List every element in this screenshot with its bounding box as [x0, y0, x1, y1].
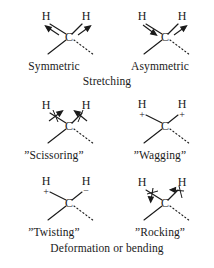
diagram-asymmetric-stretch: H H C — [112, 4, 212, 60]
atom-hydrogen-right: H — [82, 98, 91, 112]
bond-lower-left — [48, 40, 66, 54]
label-rocking: ”Rocking” — [108, 226, 212, 239]
vibrational-modes-figure: H H C Symmetric H H C — [0, 0, 214, 268]
bond-left-h — [50, 24, 66, 34]
label-scissoring: ”Scissoring” — [2, 149, 106, 162]
atom-hydrogen-left: H — [138, 175, 147, 189]
bond-left-h — [50, 192, 66, 200]
arrow-right-head — [181, 26, 187, 31]
bond-lower-left — [48, 206, 66, 220]
atom-hydrogen-left: H — [42, 98, 51, 112]
bond-lower-right-dashed — [170, 206, 190, 221]
bond-lower-right-dashed — [74, 206, 94, 221]
bond-lower-right-dashed — [74, 129, 94, 144]
bond-right-h — [168, 115, 178, 123]
bond-lower-left — [48, 129, 66, 143]
arrow-left-head — [45, 26, 51, 32]
diagram-symmetric-stretch: H H C — [16, 4, 116, 60]
diagram-scissoring: H H C — [16, 93, 116, 149]
bond-left-h — [146, 190, 162, 200]
sign-plus-left: + — [139, 109, 145, 120]
label-symmetric: Symmetric — [2, 60, 106, 73]
bond-right-h — [168, 24, 178, 34]
atom-carbon: C — [65, 196, 73, 210]
group-label-deformation: Deformation or bending — [0, 242, 214, 255]
bond-right-h — [72, 24, 82, 34]
bond-lower-right-dashed — [170, 129, 190, 144]
bond-lower-left — [144, 129, 162, 143]
arrow-right-head — [170, 188, 175, 193]
bond-lower-left — [144, 206, 162, 220]
label-wagging: ”Wagging” — [108, 149, 212, 162]
bond-lower-left — [144, 40, 162, 54]
diagram-rocking: H H C — [112, 170, 212, 226]
diagram-wagging: H H C + + — [112, 93, 212, 149]
sign-minus-right: − — [83, 185, 89, 196]
bond-right-h — [72, 192, 82, 200]
sign-plus-right: + — [179, 109, 185, 120]
bond-lower-right-dashed — [170, 40, 190, 55]
atom-hydrogen-right: H — [82, 9, 91, 23]
atom-hydrogen-left: H — [138, 9, 147, 23]
sign-plus-left: + — [43, 186, 49, 197]
atom-carbon: C — [161, 119, 169, 133]
arrow-left-head — [57, 111, 63, 117]
atom-hydrogen-left: H — [42, 9, 51, 23]
atom-carbon: C — [161, 196, 169, 210]
diagram-twisting: H H C + − — [16, 170, 116, 226]
bond-left-h — [146, 115, 162, 123]
bond-lower-right-dashed — [74, 40, 94, 55]
atom-hydrogen-right: H — [178, 9, 187, 23]
group-label-stretching: Stretching — [0, 75, 214, 88]
atom-carbon: C — [65, 30, 73, 44]
arrow-left-head — [148, 197, 153, 203]
atom-carbon: C — [161, 30, 169, 44]
atom-carbon: C — [65, 119, 73, 133]
label-asymmetric: Asymmetric — [108, 60, 212, 73]
label-twisting: ”Twisting” — [2, 226, 106, 239]
arrow-right-head — [85, 26, 91, 31]
